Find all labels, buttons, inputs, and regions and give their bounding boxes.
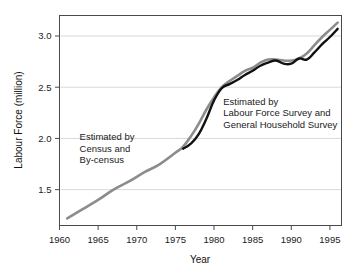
annotation-survey-line-2: Labour Force Survey and (223, 107, 330, 118)
x-tick-label-1980: 1980 (203, 234, 224, 245)
annotation-census-line-1: Estimated by (80, 131, 135, 142)
annotation-survey-line-1: Estimated by (223, 96, 278, 107)
y-tick-label-3.0: 3.0 (38, 30, 51, 41)
x-tick-label-1975: 1975 (165, 234, 186, 245)
annotation-survey-line-3: General Household Survey (223, 119, 337, 130)
chart-figure: 1.52.02.53.0 196019651970197519801985199… (0, 0, 358, 276)
chart-svg: 1.52.02.53.0 196019651970197519801985199… (0, 0, 358, 276)
x-tick-label-1960: 1960 (49, 234, 70, 245)
annotation-census-line-3: By-census (80, 154, 125, 165)
y-axis-title: Labour Force (million) (13, 71, 24, 168)
x-axis-title: Year (190, 254, 211, 265)
y-tick-label-2.5: 2.5 (38, 82, 51, 93)
y-tick-label-1.5: 1.5 (38, 184, 51, 195)
x-tick-label-1995: 1995 (319, 234, 340, 245)
x-tick-label-1970: 1970 (126, 234, 147, 245)
y-tick-label-2.0: 2.0 (38, 133, 51, 144)
annotation-census-line-2: Census and (80, 143, 131, 154)
x-tick-label-1965: 1965 (88, 234, 109, 245)
x-tick-label-1985: 1985 (242, 234, 263, 245)
x-tick-label-1990: 1990 (281, 234, 302, 245)
